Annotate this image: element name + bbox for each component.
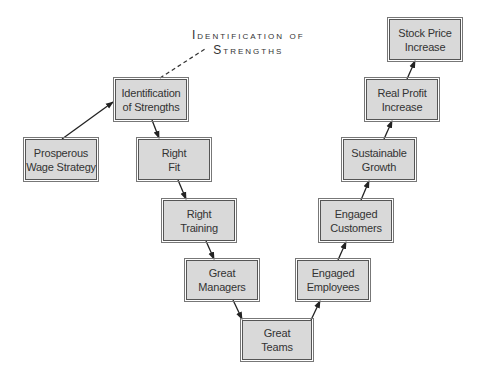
node-label-line-2: Teams [261, 340, 292, 354]
node-great-teams: Great Teams [242, 320, 312, 360]
node-stock-price-increase: Stock Price Increase [389, 19, 461, 60]
node-label-line-1: Real Profit [377, 86, 426, 100]
node-sustainable-growth: Sustainable Growth [343, 139, 415, 180]
node-label-line-1: Engaged [312, 266, 355, 280]
arrow-prosperous-to-identification [62, 102, 113, 139]
node-label-line-2: Increase [382, 100, 423, 114]
node-label-line-1: Great [264, 326, 291, 340]
node-label-line-2: Managers [198, 280, 245, 294]
node-label-line-1: Great [209, 266, 236, 280]
node-engaged-customers: Engaged Customers [320, 200, 392, 241]
node-right-training: Right Training [163, 200, 235, 241]
node-label-line-1: Identification [122, 86, 181, 100]
node-label-line-1: Right [187, 207, 212, 221]
node-label-line-1: Right [162, 146, 187, 160]
arrow-identification-to-right-fit [152, 120, 159, 138]
node-label-line-2: Wage Strategy [26, 160, 96, 174]
node-engaged-employees: Engaged Employees [297, 260, 369, 300]
node-right-fit: Right Fit [138, 139, 210, 180]
arrow-real-profit-to-stock-price [407, 61, 415, 79]
node-prosperous-wage-strategy: Prosperous Wage Strategy [25, 139, 97, 180]
node-label-line-1: Stock Price [398, 26, 451, 40]
arrow-great-teams-to-engaged-employees [311, 301, 320, 320]
node-label-line-1: Sustainable [351, 146, 406, 160]
node-label-line-2: Customers [330, 221, 381, 235]
node-great-managers: Great Managers [186, 260, 258, 300]
node-label-line-2: Training [180, 221, 218, 235]
arrow-sustainable-growth-to-real-profit [384, 121, 392, 139]
node-label-line-2: Growth [362, 160, 396, 174]
arrow-engaged-customers-to-sustainable-growth [361, 181, 369, 200]
arrow-great-managers-to-great-teams [233, 300, 242, 319]
node-label-line-1: Prosperous [34, 146, 88, 160]
node-label-line-2: of Strengths [123, 100, 180, 114]
arrow-engaged-employees-to-engaged-customers [338, 242, 346, 260]
callout-line-2: Strengths [192, 43, 305, 58]
node-real-profit-increase: Real Profit Increase [366, 79, 438, 120]
node-identification-of-strengths: Identification of Strengths [115, 79, 187, 120]
arrow-right-training-to-great-managers [206, 241, 214, 259]
node-label-line-2: Increase [405, 40, 446, 54]
arrow-right-fit-to-right-training [178, 180, 186, 199]
node-label-line-2: Employees [307, 280, 360, 294]
node-label-line-2: Fit [168, 160, 180, 174]
node-label-line-1: Engaged [335, 207, 378, 221]
callout-line-1: Identification of [192, 28, 305, 43]
callout-label: Identification of Strengths [192, 28, 305, 58]
